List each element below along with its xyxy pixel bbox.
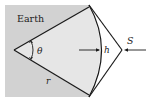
- h-label: h: [104, 45, 110, 55]
- s-label: S: [127, 35, 134, 46]
- earth-satellite-diagram: Earth θ h S r: [0, 0, 155, 103]
- s-arrowhead-icon: [124, 48, 128, 52]
- theta-label: θ: [37, 46, 43, 56]
- r-label: r: [46, 76, 51, 86]
- earth-label: Earth: [17, 13, 44, 24]
